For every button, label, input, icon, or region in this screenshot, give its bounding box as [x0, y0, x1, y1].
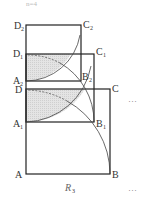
svg-text:2: 2	[20, 81, 23, 87]
svg-text:2: 2	[21, 26, 24, 32]
svg-text:R: R	[64, 182, 71, 193]
svg-text:B: B	[112, 169, 119, 180]
svg-text:2: 2	[90, 25, 93, 31]
label-B: B	[112, 169, 119, 180]
top-caption: n=4	[26, 0, 37, 8]
label-C: C	[112, 83, 119, 94]
label-C2: C2	[83, 19, 93, 31]
label-B1: B1	[96, 118, 106, 130]
svg-text:C: C	[112, 83, 119, 94]
label-D2: D2	[14, 20, 24, 32]
svg-text:2: 2	[89, 77, 92, 83]
shaded-region-2	[26, 54, 71, 81]
label-A1: A1	[13, 118, 23, 130]
label-B2: B2	[82, 71, 92, 83]
shaded-region-1	[26, 89, 85, 122]
ellipsis-upper: ···	[128, 96, 137, 106]
svg-text:1: 1	[20, 54, 23, 60]
svg-text:C: C	[83, 19, 90, 30]
ellipsis-lower: ···	[128, 185, 137, 195]
figure-caption: R 3	[64, 182, 75, 194]
geometry-figure: n=4 A B C D A1 B1 C1 D1 A2 B2 C2 D2 R 3 …	[0, 0, 142, 203]
svg-text:1: 1	[20, 124, 23, 130]
label-D1: D1	[13, 48, 23, 60]
svg-text:B: B	[96, 118, 103, 129]
label-A: A	[15, 169, 23, 180]
label-A2: A2	[13, 75, 23, 87]
svg-text:B: B	[82, 71, 89, 82]
svg-text:C: C	[96, 46, 103, 57]
svg-text:1: 1	[103, 124, 106, 130]
arc-A-solid	[67, 101, 110, 174]
label-C1: C1	[96, 46, 106, 58]
svg-text:A: A	[15, 169, 23, 180]
svg-text:1: 1	[103, 52, 106, 58]
svg-text:3: 3	[72, 188, 75, 194]
